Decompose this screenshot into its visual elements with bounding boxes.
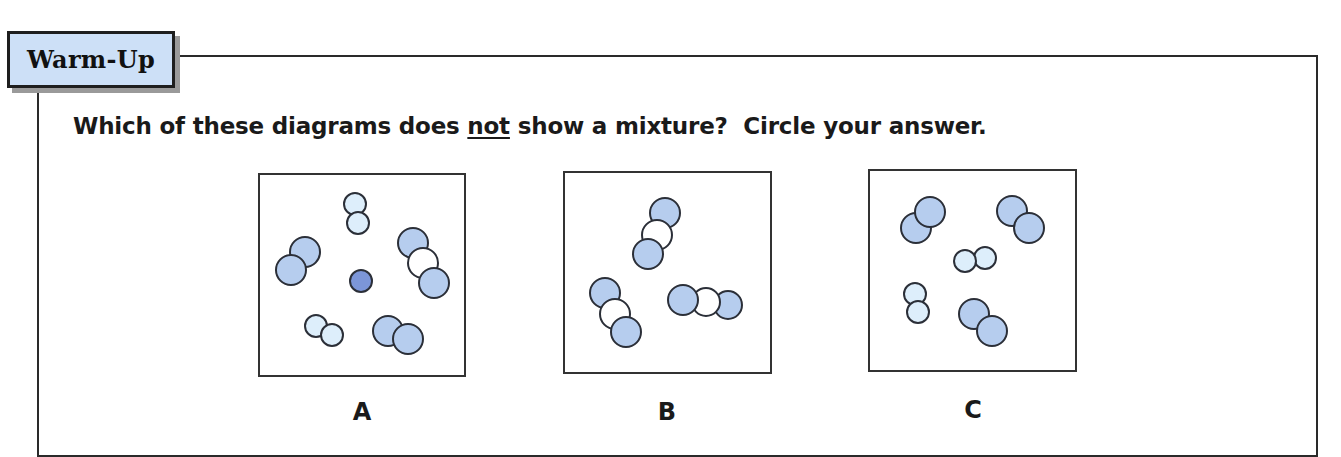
atom-icon	[633, 239, 663, 269]
atom-icon	[1014, 213, 1044, 243]
question-suffix: show a mixture? Circle your answer.	[510, 113, 987, 139]
atom-icon	[276, 255, 306, 285]
atom-icon	[347, 212, 369, 234]
atom-icon	[954, 250, 976, 272]
choice-label-a[interactable]: A	[342, 398, 382, 426]
atom-icon	[350, 270, 372, 292]
section-title: Warm-Up	[27, 45, 155, 74]
atom-icon	[611, 317, 641, 347]
atom-icon	[668, 285, 698, 315]
question-text: Which of these diagrams does not show a …	[73, 113, 987, 139]
atom-icon	[419, 268, 449, 298]
warm-up-tab: Warm-Up	[7, 31, 175, 88]
choice-label-c[interactable]: C	[953, 396, 993, 424]
atom-icon	[321, 324, 343, 346]
diagram-b[interactable]	[563, 171, 772, 374]
diagram-a[interactable]	[258, 173, 466, 377]
atom-icon	[915, 197, 945, 227]
choice-label-b[interactable]: B	[647, 398, 687, 426]
atom-icon	[977, 316, 1007, 346]
molecule-diagram-c	[868, 169, 1077, 372]
question-prefix: Which of these diagrams does	[73, 113, 467, 139]
molecule-diagram-a	[258, 173, 466, 377]
atom-icon	[393, 324, 423, 354]
atom-icon	[974, 247, 996, 269]
diagram-c[interactable]	[868, 169, 1077, 372]
molecule-diagram-b	[563, 171, 772, 374]
atom-icon	[907, 301, 929, 323]
question-emphasis: not	[467, 113, 510, 139]
